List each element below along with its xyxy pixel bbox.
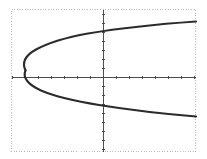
graph-screenshot	[0, 0, 207, 159]
parabola-plot-svg	[0, 0, 207, 159]
plot-figure	[0, 0, 207, 159]
